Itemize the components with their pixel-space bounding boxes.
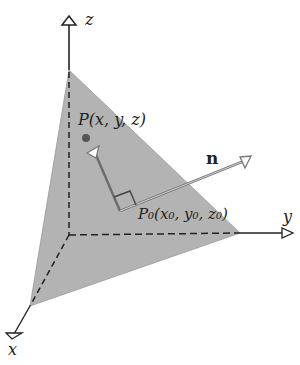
z-arrow-icon: [62, 16, 76, 25]
z-axis-label: z: [85, 10, 93, 29]
point-p-label: P(x, y, z): [78, 110, 146, 129]
x-axis: [14, 306, 30, 334]
x-axis-label: x: [8, 340, 17, 359]
point-p0-label: P₀(x₀, y₀, z₀): [138, 205, 228, 223]
x-arrow-icon: [6, 333, 22, 339]
plane: [30, 70, 240, 306]
point-p: [82, 134, 90, 142]
normal-arrow-icon: [240, 156, 251, 168]
y-axis-label: y: [283, 207, 292, 226]
normal-vector-label: n: [206, 148, 218, 168]
y-arrow-icon: [282, 228, 293, 238]
plane-diagram: [0, 0, 300, 365]
